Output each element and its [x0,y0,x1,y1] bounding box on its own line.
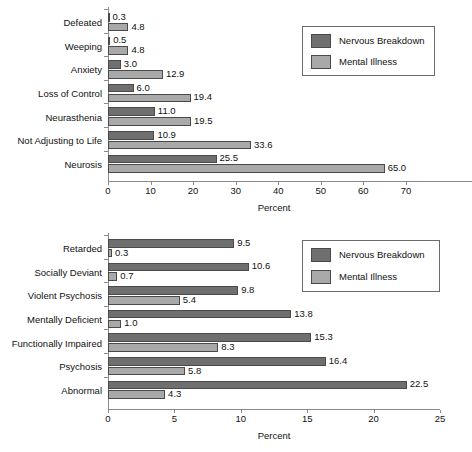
bar-value-label: 12.9 [166,69,185,79]
x-axis-tick-label: 50 [301,186,341,196]
x-axis-tick-label: 60 [343,186,383,196]
category-label: Defeated [2,18,102,28]
bar-nervous-breakdown [108,84,134,93]
x-axis-tick-label: 20 [354,414,394,424]
bar-mental-illness [108,164,385,173]
x-axis-tick-label: 25 [420,414,460,424]
x-axis-tick-label: 10 [221,414,261,424]
x-axis-line [108,409,440,410]
bar-mental-illness [108,343,218,352]
bar-value-label: 19.4 [194,92,213,102]
category-label: Neurosis [2,160,102,170]
bar-value-label: 4.3 [168,389,181,399]
category-tick [104,103,108,104]
bar-mental-illness [108,390,165,399]
bar-value-label: 9.5 [237,238,250,248]
legend-entry-mental-illness: Mental Illness [311,270,397,284]
legend-entry-mental-illness: Mental Illness [311,55,397,69]
x-axis-tick-label: 30 [216,186,256,196]
bar-value-label: 15.3 [314,332,333,342]
bar-mental-illness [108,272,117,281]
bar-value-label: 6.0 [137,83,150,93]
category-label: Anxiety [2,65,102,75]
category-label: Loss of Control [2,89,102,99]
category-tick [104,9,108,10]
bar-nervous-breakdown [108,60,121,69]
category-tick [104,377,108,378]
category-label: Neurasthenia [2,113,102,123]
category-tick [104,306,108,307]
bar-value-label: 25.5 [220,153,239,163]
legend-bottom: Nervous Breakdown Mental Illness [302,240,440,292]
bar-nervous-breakdown [108,13,110,22]
x-axis-tick-label: 0 [88,414,128,424]
bar-value-label: 4.8 [131,45,144,55]
x-axis-title: Percent [214,431,334,441]
x-axis-tick-label: 15 [287,414,327,424]
bar-mental-illness [108,46,128,55]
bar-mental-illness [108,296,180,305]
category-tick [104,56,108,57]
bar-value-label: 0.7 [120,271,133,281]
x-axis-tick-label: 0 [88,186,128,196]
bar-value-label: 5.8 [188,366,201,376]
legend-swatch-mental-illness [311,270,331,284]
category-tick [104,127,108,128]
category-tick [104,235,108,236]
bar-mental-illness [108,70,163,79]
bar-mental-illness [108,367,185,376]
bar-value-label: 13.8 [294,309,313,319]
bar-nervous-breakdown [108,286,238,295]
x-axis-tick-label: 20 [173,186,213,196]
bar-mental-illness [108,249,112,258]
legend-swatch-mental-illness [311,55,331,69]
legend-entry-nervous-breakdown: Nervous Breakdown [311,34,425,48]
chart-panel-top: 010203040506070PercentDefeated0.34.8Weep… [0,0,455,226]
legend-label-mental-illness: Mental Illness [339,57,397,67]
bar-value-label: 11.0 [158,106,176,116]
category-label: Mentally Deficient [2,315,102,325]
bar-value-label: 0.3 [113,12,126,22]
bar-value-label: 4.8 [131,22,144,32]
bar-value-label: 10.9 [157,130,176,140]
bar-value-label: 19.5 [194,116,213,126]
bar-nervous-breakdown [108,155,217,164]
bar-mental-illness [108,141,251,150]
bar-value-label: 1.0 [124,318,137,328]
category-tick [104,151,108,152]
x-axis-line [108,181,472,182]
category-label: Psychosis [2,362,102,372]
legend-swatch-nervous-breakdown [311,34,331,48]
bar-value-label: 5.4 [183,295,196,305]
bar-nervous-breakdown [108,381,407,390]
bar-mental-illness [108,94,191,103]
bar-value-label: 9.8 [241,285,254,295]
bar-value-label: 10.6 [252,261,271,271]
legend-label-nervous-breakdown: Nervous Breakdown [339,250,425,260]
x-axis-tick-label: 10 [131,186,171,196]
legend-entry-nervous-breakdown: Nervous Breakdown [311,248,425,262]
category-label: Weeping [2,42,102,52]
category-tick [104,282,108,283]
bar-value-label: 65.0 [388,163,407,173]
bar-value-label: 3.0 [124,59,137,69]
bar-mental-illness [108,23,128,32]
x-axis-tick-label: 5 [154,414,194,424]
category-tick [104,329,108,330]
legend-swatch-nervous-breakdown [311,248,331,262]
bar-nervous-breakdown [108,357,326,366]
bar-value-label: 0.3 [115,248,128,258]
category-tick [104,33,108,34]
legend-label-nervous-breakdown: Nervous Breakdown [339,36,425,46]
bar-value-label: 33.6 [254,140,273,150]
chart-panel-bottom: 0510152025PercentRetarded9.50.3Socially … [0,226,455,452]
bar-nervous-breakdown [108,37,110,46]
category-label: Not Adjusting to Life [2,136,102,146]
category-label: Functionally Impaired [2,339,102,349]
category-label: Socially Deviant [2,268,102,278]
category-tick [104,353,108,354]
bar-nervous-breakdown [108,333,311,342]
category-tick [104,259,108,260]
x-axis-tick-label: 70 [386,186,426,196]
